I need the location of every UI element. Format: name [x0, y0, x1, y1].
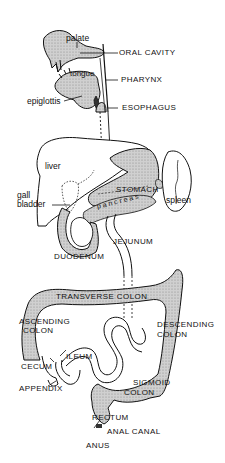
label-liver: liver	[45, 162, 61, 171]
label-sigmoid-colon-line2: COLON	[124, 389, 154, 397]
label-ileum: ILEUM	[66, 353, 92, 361]
anatomy-illustration	[0, 0, 225, 463]
anus-shape	[96, 424, 102, 428]
label-oral-cavity: ORAL CAVITY	[119, 49, 175, 57]
label-transverse-colon: TRANSVERSE COLON	[56, 293, 147, 301]
label-palate: palate	[66, 34, 89, 43]
label-cecum: CECUM	[21, 363, 52, 371]
label-spleen: spleen	[166, 196, 191, 205]
label-anal-canal: ANAL CANAL	[107, 428, 161, 436]
label-rectum: RECTUM	[92, 414, 129, 422]
label-jejunum: JEJUNUM	[113, 238, 153, 246]
label-pharynx: PHARYNX	[121, 76, 162, 84]
label-ascending-colon-line1: ASCENDING	[19, 318, 70, 326]
label-esophagus: ESOPHAGUS	[122, 104, 176, 112]
label-appendix: APPENDIX	[19, 385, 63, 393]
label-duodenum: DUODENUM	[54, 253, 104, 261]
label-epiglottis: epiglottis	[27, 97, 61, 106]
label-descending-colon-line2: COLON	[157, 331, 187, 339]
label-gall-bladder-line2: bladder	[17, 200, 45, 209]
label-ascending-colon-line2: COLON	[23, 327, 53, 335]
label-descending-colon-line1: DESCENDING	[157, 321, 214, 329]
label-tongue: tongue	[70, 70, 94, 78]
ileum-shape	[56, 317, 146, 384]
label-sigmoid-colon-line1: SIGMOID	[133, 379, 170, 387]
digestive-system-diagram: palate ORAL CAVITY tongue PHARYNX epiglo…	[0, 0, 225, 463]
label-anus: ANUS	[86, 442, 110, 450]
